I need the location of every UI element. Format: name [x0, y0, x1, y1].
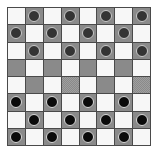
board-square-r7c3[interactable]: [44, 112, 61, 128]
board-square-r2c5[interactable]: [80, 25, 97, 41]
dark-gray-checker-piece[interactable]: [100, 45, 112, 57]
black-checker-piece[interactable]: [82, 131, 94, 143]
dark-gray-checker-piece[interactable]: [64, 10, 76, 22]
board-square-r8c3[interactable]: [44, 129, 61, 145]
board-square-r5c5[interactable]: [80, 77, 97, 93]
board-square-r5c1[interactable]: [8, 77, 25, 93]
board-square-r8c7[interactable]: [115, 129, 132, 145]
board-square-r8c2[interactable]: [26, 129, 43, 145]
board-square-r4c5[interactable]: [80, 60, 97, 76]
black-checker-piece[interactable]: [136, 114, 148, 126]
board-square-r2c3[interactable]: [44, 25, 61, 41]
board-square-r2c2[interactable]: [26, 25, 43, 41]
board-square-r8c6[interactable]: [97, 129, 114, 145]
black-checker-piece[interactable]: [10, 96, 22, 108]
board-square-r6c7[interactable]: [115, 94, 132, 110]
board-square-r6c3[interactable]: [44, 94, 61, 110]
black-checker-piece[interactable]: [10, 131, 22, 143]
dark-gray-checker-piece[interactable]: [118, 27, 130, 39]
board-square-r6c1[interactable]: [8, 94, 25, 110]
dark-gray-checker-piece[interactable]: [64, 45, 76, 57]
black-checker-piece[interactable]: [28, 114, 40, 126]
board-square-r5c7[interactable]: [115, 77, 132, 93]
board-square-r1c4[interactable]: [62, 8, 79, 24]
black-checker-piece[interactable]: [118, 96, 130, 108]
board-square-r1c5[interactable]: [80, 8, 97, 24]
dark-gray-checker-piece[interactable]: [46, 27, 58, 39]
board-square-r2c8[interactable]: [133, 25, 150, 41]
checkers-board[interactable]: [7, 7, 151, 146]
board-square-r6c6[interactable]: [97, 94, 114, 110]
dark-gray-checker-piece[interactable]: [28, 45, 40, 57]
board-square-r7c4[interactable]: [62, 112, 79, 128]
board-square-r4c6[interactable]: [97, 60, 114, 76]
board-square-r7c2[interactable]: [26, 112, 43, 128]
board-square-r1c7[interactable]: [115, 8, 132, 24]
board-square-r2c1[interactable]: [8, 25, 25, 41]
board-square-r5c2[interactable]: [26, 77, 43, 93]
board-square-r4c7[interactable]: [115, 60, 132, 76]
board-square-r7c5[interactable]: [80, 112, 97, 128]
board-square-r5c3[interactable]: [44, 77, 61, 93]
board-square-r8c4[interactable]: [62, 129, 79, 145]
board-square-r6c8[interactable]: [133, 94, 150, 110]
board-square-r3c5[interactable]: [80, 43, 97, 59]
board-square-r2c7[interactable]: [115, 25, 132, 41]
black-checker-piece[interactable]: [100, 114, 112, 126]
board-square-r3c8[interactable]: [133, 43, 150, 59]
dark-gray-checker-piece[interactable]: [100, 10, 112, 22]
board-square-r6c4[interactable]: [62, 94, 79, 110]
dark-gray-checker-piece[interactable]: [82, 27, 94, 39]
board-square-r1c8[interactable]: [133, 8, 150, 24]
black-checker-piece[interactable]: [118, 131, 130, 143]
board-square-r8c5[interactable]: [80, 129, 97, 145]
board-square-r3c3[interactable]: [44, 43, 61, 59]
board-square-r7c1[interactable]: [8, 112, 25, 128]
board-square-r3c2[interactable]: [26, 43, 43, 59]
black-checker-piece[interactable]: [82, 96, 94, 108]
board-canvas: [0, 0, 158, 153]
board-square-r1c2[interactable]: [26, 8, 43, 24]
board-square-r4c3[interactable]: [44, 60, 61, 76]
board-square-r5c6[interactable]: [97, 77, 114, 93]
board-square-r4c2[interactable]: [26, 60, 43, 76]
board-square-r3c4[interactable]: [62, 43, 79, 59]
board-square-r1c6[interactable]: [97, 8, 114, 24]
board-square-r2c6[interactable]: [97, 25, 114, 41]
board-square-r1c3[interactable]: [44, 8, 61, 24]
dark-gray-checker-piece[interactable]: [28, 10, 40, 22]
board-square-r4c4[interactable]: [62, 60, 79, 76]
board-square-r2c4[interactable]: [62, 25, 79, 41]
board-square-r3c6[interactable]: [97, 43, 114, 59]
board-square-r4c8[interactable]: [133, 60, 150, 76]
black-checker-piece[interactable]: [46, 131, 58, 143]
board-square-r6c2[interactable]: [26, 94, 43, 110]
board-square-r7c8[interactable]: [133, 112, 150, 128]
black-checker-piece[interactable]: [46, 96, 58, 108]
board-square-r5c8[interactable]: [133, 77, 150, 93]
dark-gray-checker-piece[interactable]: [136, 45, 148, 57]
board-square-r4c1[interactable]: [8, 60, 25, 76]
board-square-r8c8[interactable]: [133, 129, 150, 145]
black-checker-piece[interactable]: [64, 114, 76, 126]
board-square-r5c4[interactable]: [62, 77, 79, 93]
board-square-r3c1[interactable]: [8, 43, 25, 59]
board-square-r8c1[interactable]: [8, 129, 25, 145]
board-square-r6c5[interactable]: [80, 94, 97, 110]
board-square-r7c7[interactable]: [115, 112, 132, 128]
board-square-r3c7[interactable]: [115, 43, 132, 59]
board-square-r7c6[interactable]: [97, 112, 114, 128]
dark-gray-checker-piece[interactable]: [136, 10, 148, 22]
board-square-r1c1[interactable]: [8, 8, 25, 24]
dark-gray-checker-piece[interactable]: [10, 27, 22, 39]
